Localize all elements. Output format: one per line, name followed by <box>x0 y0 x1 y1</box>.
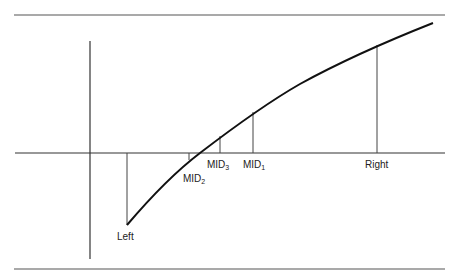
mid1-label: MID1 <box>243 160 265 170</box>
mid3-label: MID3 <box>207 160 229 170</box>
diagram-canvas <box>0 0 460 277</box>
bisection-diagram: Left Right MID3 MID1 MID2 <box>0 0 460 277</box>
mid1-label-sub: 1 <box>261 164 265 171</box>
mid1-label-base: MID <box>243 159 261 170</box>
mid2-label-sub: 2 <box>201 178 205 185</box>
mid2-label-base: MID <box>183 173 201 184</box>
mid2-label: MID2 <box>183 174 205 184</box>
left-label: Left <box>117 232 134 242</box>
mid3-label-base: MID <box>207 159 225 170</box>
right-label: Right <box>365 160 388 170</box>
mid3-label-sub: 3 <box>225 164 229 171</box>
function-curve <box>127 23 433 225</box>
